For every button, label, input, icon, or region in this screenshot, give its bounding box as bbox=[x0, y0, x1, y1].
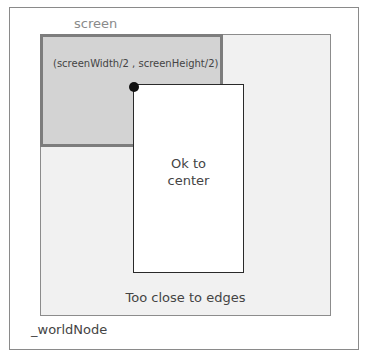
world-node-label: _worldNode bbox=[31, 322, 107, 337]
center-point-marker bbox=[129, 82, 139, 92]
too-close-label: Too close to edges bbox=[40, 290, 331, 305]
ok-to-center-line1: Ok to bbox=[133, 155, 244, 172]
ok-to-center-label: Ok to center bbox=[133, 155, 244, 189]
ok-to-center-line2: center bbox=[133, 172, 244, 189]
screen-label: screen bbox=[74, 16, 117, 31]
center-point-label: (screenWidth/2 , screenHeight/2) bbox=[53, 58, 218, 69]
